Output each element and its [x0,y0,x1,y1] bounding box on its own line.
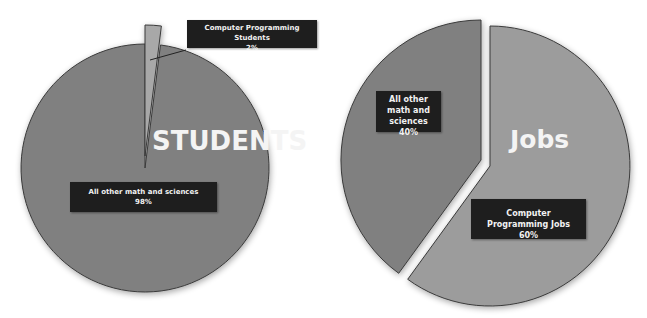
pie-charts [0,0,647,318]
students-other-label: All other math and sciences 98% [70,182,217,212]
jobs-programming-label: Computer Programming Jobs 60% [471,199,586,239]
jobs-title: Jobs [510,125,569,154]
jobs-programming-label-name: Computer Programming Jobs [475,208,582,230]
students-title: STUDENTS [152,126,307,156]
students-other-label-name: All other math and sciences [74,187,213,197]
jobs-programming-label-value: 60% [475,230,582,241]
jobs-other-label: All other math and sciences 40% [376,91,441,132]
jobs-pie [341,20,630,306]
jobs-other-label-value: 40% [378,127,439,138]
students-pie [21,25,269,292]
students-other-label-value: 98% [74,197,213,207]
students-programming-label: Computer Programming Students 2% [187,20,317,48]
students-programming-label-value: 2% [191,43,313,53]
students-programming-label-name: Computer Programming Students [191,23,313,43]
jobs-other-label-line2: sciences [378,116,439,127]
jobs-other-label-line1: All other math and [378,94,439,116]
